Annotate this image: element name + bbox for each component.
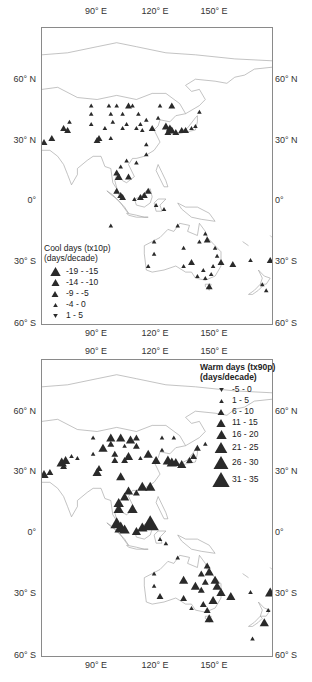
triangle-up-marker-icon — [107, 441, 114, 447]
triangle-up-marker-icon — [134, 126, 139, 130]
lat-label-left-0: 0° — [0, 195, 36, 205]
triangle-up-marker-icon — [136, 112, 141, 116]
legend-label: 31 - 35 — [232, 475, 258, 484]
triangle-up-marker-icon — [98, 444, 107, 452]
triangle-up-marker-icon — [109, 223, 114, 227]
triangle-up-marker-icon — [140, 128, 145, 132]
legend-label: 6 - 10 — [232, 407, 254, 416]
lat-label-right-30s: 30° S — [275, 588, 297, 598]
triangle-down-icon — [210, 387, 232, 393]
triangle-up-marker-icon — [152, 252, 157, 256]
lat-label-left-60s: 60° S — [0, 318, 36, 328]
triangle-up-marker-icon — [195, 274, 200, 278]
triangle-up-marker-icon — [160, 436, 165, 440]
triangle-up-marker-icon — [211, 576, 220, 584]
lon-label-top-90: 90° E — [85, 6, 107, 16]
legend-label: 11 - 15 — [232, 418, 258, 427]
lat-label-right-60s: 60° S — [275, 650, 297, 660]
triangle-up-marker-icon — [96, 465, 103, 471]
legend-entry: -5 - 0 — [210, 384, 275, 395]
triangle-up-marker-icon — [142, 515, 159, 530]
triangle-up-marker-icon — [149, 125, 156, 131]
triangle-up-marker-icon — [198, 571, 205, 577]
coastline — [156, 497, 168, 519]
triangle-up-icon — [44, 302, 66, 308]
triangle-up-marker-icon — [133, 435, 140, 441]
triangle-up-marker-icon — [106, 434, 115, 442]
triangle-up-marker-icon — [197, 110, 202, 114]
coastline — [270, 236, 272, 238]
triangle-up-marker-icon — [229, 261, 236, 267]
triangle-up-marker-icon — [67, 120, 72, 124]
triangle-up-marker-icon — [145, 482, 155, 491]
triangle-up-icon — [210, 418, 232, 428]
triangle-up-marker-icon — [125, 174, 132, 180]
legend-entry: 21 - 25 — [210, 440, 275, 454]
cool-days-panel: 90° E 120° E 150° E 60° N 30° N 0° 30° S… — [0, 0, 312, 340]
legend-label: -9 - -5 — [66, 289, 89, 298]
triangle-up-marker-icon — [111, 451, 118, 457]
triangle-up-marker-icon — [181, 246, 186, 250]
triangle-up-marker-icon — [75, 456, 80, 460]
triangle-up-marker-icon — [248, 258, 253, 262]
triangle-up-marker-icon — [202, 579, 209, 585]
triangle-up-marker-icon — [264, 288, 269, 292]
triangle-up-marker-icon — [111, 120, 116, 124]
triangle-up-marker-icon — [124, 122, 129, 126]
legend-title: Warm days (tx90p) — [200, 363, 275, 372]
triangle-up-marker-icon — [215, 254, 220, 258]
legend-entry: -4 - 0 — [44, 299, 111, 310]
coastline — [249, 284, 263, 294]
triangle-up-icon — [210, 455, 232, 470]
legend-label: 16 - 20 — [232, 430, 258, 439]
triangle-up-marker-icon — [265, 587, 273, 596]
triangle-up-marker-icon — [209, 272, 214, 276]
triangle-up-marker-icon — [180, 595, 187, 601]
triangle-up-marker-icon — [179, 576, 188, 584]
lat-label-right-30n: 30° N — [275, 135, 298, 145]
coastline — [127, 213, 149, 217]
triangle-up-marker-icon — [91, 452, 96, 456]
triangle-up-marker-icon — [138, 122, 143, 126]
triangle-up-marker-icon — [162, 207, 167, 211]
legend-label: 1 - 5 — [66, 311, 83, 320]
triangle-up-marker-icon — [132, 197, 137, 201]
triangle-up-marker-icon — [203, 232, 208, 236]
legend-entry: -9 - -5 — [44, 288, 111, 299]
triangle-up-marker-icon — [118, 165, 123, 169]
triangle-up-marker-icon — [138, 456, 143, 460]
coastline — [156, 165, 168, 187]
coastline — [42, 87, 186, 199]
legend-entry: 31 - 35 — [210, 470, 275, 488]
triangle-up-marker-icon — [267, 257, 273, 263]
triangle-up-marker-icon — [120, 126, 125, 130]
lat-label-right-30s: 30° S — [275, 256, 297, 266]
triangle-up-marker-icon — [111, 457, 118, 463]
triangle-up-marker-icon — [89, 104, 94, 108]
legend-entry: 1 - 5 — [210, 395, 275, 406]
triangle-up-marker-icon — [226, 592, 235, 600]
triangle-up-marker-icon — [46, 469, 53, 475]
triangle-up-marker-icon — [144, 118, 149, 122]
triangle-up-marker-icon — [156, 116, 161, 120]
triangle-up-marker-icon — [144, 142, 149, 146]
lon-label-bottom-90: 90° E — [85, 660, 107, 670]
triangle-up-marker-icon — [203, 276, 208, 280]
lat-label-right-60n: 60° N — [275, 74, 298, 84]
triangle-up-marker-icon — [144, 450, 153, 458]
legend-entry: 1 - 5 — [44, 310, 111, 321]
triangle-up-marker-icon — [133, 443, 140, 449]
triangle-up-marker-icon — [158, 104, 163, 108]
coastline — [42, 150, 117, 189]
lon-label-bottom-90: 90° E — [85, 328, 107, 338]
triangle-up-marker-icon — [130, 104, 135, 108]
triangle-up-marker-icon — [152, 456, 161, 464]
triangle-up-marker-icon — [218, 259, 225, 265]
lon-label-bottom-120: 120° E — [141, 328, 168, 338]
triangle-up-marker-icon — [134, 160, 139, 164]
lat-label-left-30s: 30° S — [0, 256, 36, 266]
legend-label: -4 - 0 — [66, 300, 86, 309]
lat-label-right-60n: 60° N — [275, 406, 298, 416]
triangle-up-marker-icon — [124, 158, 129, 162]
legend-entry: 16 - 20 — [210, 428, 275, 440]
